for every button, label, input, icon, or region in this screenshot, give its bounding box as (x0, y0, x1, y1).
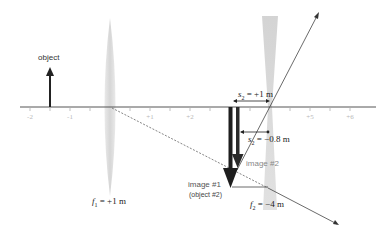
axis-ticks (30, 107, 350, 111)
image1-arrowhead (223, 168, 238, 188)
ray-diagram: -2 -1 +1 +2 +5 +6 object s2 = +1 m s2 = … (0, 0, 384, 234)
s2prime-arrowhead-left (240, 130, 244, 134)
diverging-lens (262, 16, 278, 210)
image2-arrow-shaft (236, 107, 240, 155)
f2-label: f2 = −4 m (250, 200, 284, 211)
tick-label-pos6: +6 (346, 113, 353, 121)
image1-arrow-shaft (229, 107, 233, 169)
image1-sublabel: (object #2) (189, 191, 222, 198)
image2-label: image #2 (246, 160, 279, 168)
object-arrowhead (46, 67, 54, 76)
image1-label: image #1 (188, 181, 221, 189)
tick-label-pos2: +2 (186, 113, 193, 121)
tick-label-pos5: +5 (306, 113, 313, 121)
f1-label: f1 = +1 m (92, 197, 126, 208)
s2-arrowhead-left (233, 99, 237, 103)
tick-label-pos1: +1 (146, 113, 153, 121)
s2-value: = +1 m (245, 89, 273, 99)
s2prime-label: s2 = −0.8 m (248, 135, 290, 146)
f1-value: = +1 m (98, 196, 126, 206)
tick-label-neg1: -1 (67, 113, 73, 121)
s2prime-endpoint (267, 131, 270, 134)
s2prime-value: = −0.8 m (255, 134, 290, 144)
s2-label: s2 = +1 m (238, 90, 273, 101)
f2-value: = −4 m (256, 199, 284, 209)
object-label: object (38, 54, 59, 62)
ray-arrowhead-down (333, 220, 339, 225)
tick-label-neg2: -2 (27, 113, 33, 121)
ray-arrowhead-up (314, 12, 319, 19)
